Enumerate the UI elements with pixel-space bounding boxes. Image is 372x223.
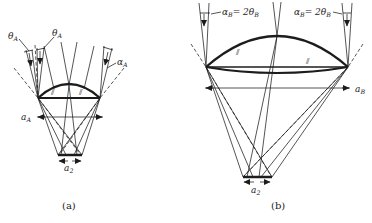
ray	[206, 67, 253, 177]
glass-hatch-mark: ⫽	[235, 48, 240, 57]
ray	[272, 67, 348, 177]
focal-spot-a-label: a2	[64, 163, 73, 174]
lens-focusing-figure: ⫽ ⫽	[0, 0, 372, 223]
theta-a-left-label: θA	[8, 31, 18, 42]
panel-b: ⫽ ⫽ αB= 2	[191, 2, 365, 211]
panel-b-focal-segment	[243, 177, 272, 182]
lens-b-top-surface	[206, 36, 348, 67]
ray	[261, 67, 348, 177]
panel-b-caption: (b)	[271, 200, 285, 211]
panel-a-focal-segment	[58, 155, 82, 161]
leader-line	[19, 39, 29, 51]
panel-b-central-rays	[247, 2, 281, 177]
ray	[38, 98, 82, 155]
glass-hatch-mark: ⫽	[305, 57, 310, 66]
panel-a-focusing-rays	[38, 98, 100, 155]
glass-hatch-mark: ⫽	[78, 88, 83, 97]
angle-b-right-label: αB= 2θB	[294, 7, 331, 18]
aperture-b-label: aB	[355, 84, 365, 95]
ray	[82, 98, 100, 155]
alpha-a-label: αA	[117, 57, 128, 68]
theta-a-right-label: θA	[52, 28, 62, 39]
ray	[74, 98, 100, 155]
figure-canvas: ⫽ ⫽	[0, 0, 372, 223]
panel-a-alpha-wedge	[100, 46, 116, 98]
aperture-a-label: aA	[21, 112, 31, 123]
lens-b: ⫽ ⫽	[206, 36, 348, 73]
down-arrow-icon	[105, 52, 108, 65]
angle-b-left-label: αB= 2θB	[222, 7, 259, 18]
glass-hatch-mark: ⫽	[50, 88, 55, 97]
focal-spot-b-label: a2	[251, 185, 260, 196]
panel-b-focusing-rays	[206, 67, 348, 177]
panel-a-caption: (a)	[62, 200, 76, 211]
ray	[44, 46, 54, 89]
ray	[206, 67, 243, 177]
ray	[259, 2, 281, 177]
wedge-line	[38, 48, 44, 98]
dashed-ray	[191, 44, 271, 176]
panel-a: ⫽ ⫽	[8, 28, 128, 211]
ray	[84, 46, 94, 89]
leader-line	[211, 12, 221, 14]
leader-line	[333, 12, 342, 14]
leader-line	[43, 37, 54, 49]
ray	[38, 98, 58, 155]
lens-b-bottom-surface	[206, 67, 348, 73]
ray	[38, 98, 66, 155]
